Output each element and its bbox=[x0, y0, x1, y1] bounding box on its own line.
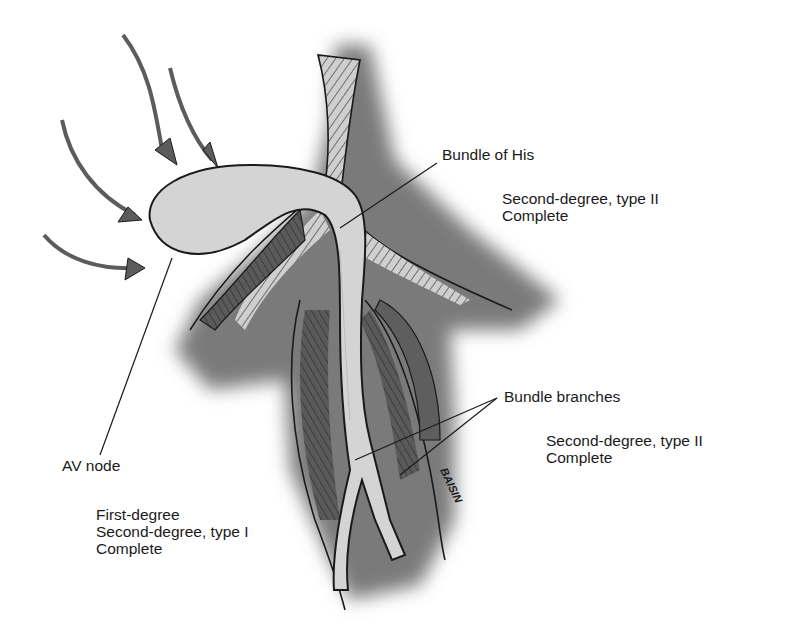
his-block-2: Complete bbox=[502, 207, 659, 224]
label-av-node: AV node bbox=[62, 457, 120, 474]
label-bundle-of-his: Bundle of His bbox=[442, 146, 534, 163]
annotation-branch-blocks: Second-degree, type II Complete bbox=[546, 432, 703, 466]
branch-block-1: Second-degree, type II bbox=[546, 432, 703, 449]
av-block-2: Second-degree, type I bbox=[96, 523, 249, 540]
label-bundle-branches: Bundle branches bbox=[504, 388, 620, 405]
branch-block-2: Complete bbox=[546, 449, 703, 466]
arrow-icon bbox=[44, 235, 138, 268]
annotation-his-blocks: Second-degree, type II Complete bbox=[502, 190, 659, 224]
av-block-1: First-degree bbox=[96, 506, 249, 523]
arrow-icon bbox=[62, 120, 135, 215]
his-block-1: Second-degree, type II bbox=[502, 190, 659, 207]
av-block-3: Complete bbox=[96, 540, 249, 557]
arrow-icon bbox=[123, 35, 163, 155]
annotation-av-node-blocks: First-degree Second-degree, type I Compl… bbox=[96, 506, 249, 557]
